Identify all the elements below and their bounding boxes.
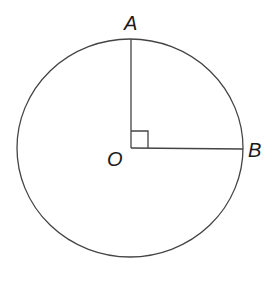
label-a: A [123, 12, 137, 34]
label-o: O [107, 148, 123, 170]
circle [17, 39, 243, 257]
label-b: B [248, 139, 261, 161]
circle-diagram: A O B [0, 0, 274, 284]
right-angle-marker [131, 131, 148, 148]
radius-ob [131, 148, 243, 149]
